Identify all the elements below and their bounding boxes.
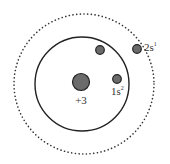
electron-1s-a [96,46,105,55]
atom-diagram: +3 1s2 2s1 [0,0,170,164]
outer-shell-label: 2s1 [144,41,157,53]
inner-shell-label: 1s2 [111,85,124,97]
electron-2s [133,45,142,54]
electron-1s-b [113,75,122,84]
nucleus [73,74,90,91]
nucleus-charge-label: +3 [75,94,87,106]
